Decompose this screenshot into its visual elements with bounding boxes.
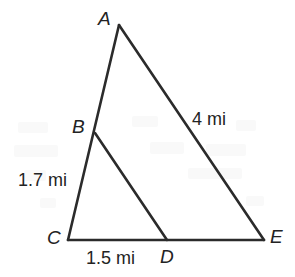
segment-BD	[95, 133, 167, 240]
figure-lines	[0, 0, 295, 277]
geometry-diagram: A B C D E 4 mi 1.7 mi 1.5 mi	[0, 0, 295, 277]
segment-AE	[119, 25, 264, 240]
vertex-label-e: E	[270, 227, 283, 246]
vertex-label-a: A	[98, 9, 111, 28]
vertex-label-b: B	[72, 117, 85, 136]
vertex-label-d: D	[160, 247, 174, 266]
measurement-label-ae: 4 mi	[192, 110, 226, 128]
measurement-label-cd: 1.5 mi	[86, 249, 135, 267]
vertex-label-c: C	[47, 228, 61, 247]
measurement-label-bc: 1.7 mi	[18, 171, 67, 189]
